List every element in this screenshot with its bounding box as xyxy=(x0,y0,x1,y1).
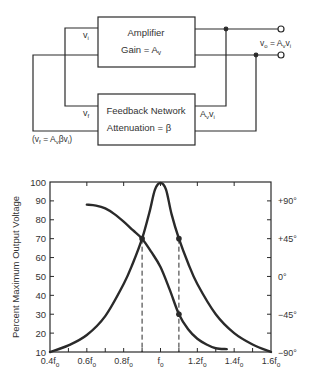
x-tick-label: 1.4fo xyxy=(225,356,244,368)
feedback-network-block xyxy=(98,94,195,145)
amplifier-gain: Gain = Av xyxy=(121,44,162,56)
x-tick-label: 0.4fo xyxy=(41,356,60,368)
wire-feedback-top xyxy=(195,29,226,106)
x-tick-label: 1.6fo xyxy=(262,356,281,368)
feedback-oscillator-figure: Amplifier Gain = Av Feedback Network Att… xyxy=(0,0,310,381)
y-tick-label: 40 xyxy=(35,290,46,301)
data-point-marker xyxy=(176,311,182,317)
feedback-attenuation: Attenuation = β xyxy=(107,122,172,133)
y-tick-label: 90 xyxy=(35,195,46,206)
output-terminal-bottom xyxy=(278,52,284,58)
output-terminal-top xyxy=(278,26,284,32)
phase-tick-label: −90° xyxy=(278,348,297,358)
frequency-response-chart: 102030405060708090100 +90°+45°0°−45°−90°… xyxy=(10,177,297,368)
label-av-vi: Avvi xyxy=(200,109,215,120)
x-tick-label: 0.6fo xyxy=(78,356,97,368)
phase-curve xyxy=(87,205,227,349)
junction-dot-top xyxy=(224,27,228,31)
y-tick-label: 50 xyxy=(35,271,46,282)
label-vo-equation: vo = Avvi xyxy=(260,38,291,49)
junction-dot-bottom xyxy=(254,53,258,57)
y-tick-label: 30 xyxy=(35,309,46,320)
phase-tick-label: +90° xyxy=(278,196,297,206)
dashed-guide-lines xyxy=(142,239,179,352)
x-tick-label: 0.8fo xyxy=(114,356,133,368)
amplifier-block xyxy=(98,17,195,67)
data-point-marker xyxy=(139,236,145,242)
phase-tick-label: +45° xyxy=(278,234,297,244)
wire-vi-loop xyxy=(65,28,98,106)
data-point-marker xyxy=(176,236,182,242)
x-tick-label: 1.2fo xyxy=(188,356,207,368)
chart-series xyxy=(50,183,271,352)
label-vf-equation: (vf = Avβvi) xyxy=(32,134,72,145)
label-vf: vf xyxy=(83,108,90,119)
amplifier-title: Amplifier xyxy=(128,27,165,38)
y-axis-label: Percent Maximum Output Voltage xyxy=(10,196,21,338)
feedback-title: Feedback Network xyxy=(106,105,185,116)
label-vi: vi xyxy=(83,30,89,41)
phase-tick-label: −45° xyxy=(278,310,297,320)
figure: Amplifier Gain = Av Feedback Network Att… xyxy=(0,0,310,381)
x-tick-label: fo xyxy=(157,356,164,368)
phase-tick-label: 0° xyxy=(278,272,287,282)
y-tick-label: 60 xyxy=(35,252,46,263)
y-tick-label: 70 xyxy=(35,233,46,244)
y-tick-label: 100 xyxy=(30,177,46,188)
y-tick-label: 80 xyxy=(35,214,46,225)
y-tick-label: 20 xyxy=(35,328,46,339)
